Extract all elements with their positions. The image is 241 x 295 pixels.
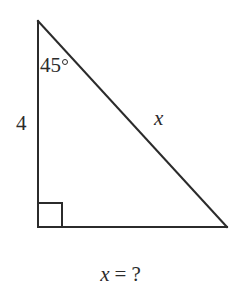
- triangle-hypotenuse: [38, 21, 227, 227]
- caption-equals: =: [115, 262, 127, 286]
- angle-label: 45: [40, 55, 68, 76]
- triangle-drawing: [0, 0, 241, 295]
- caption-variable: x: [100, 262, 109, 286]
- caption-unknown: ?: [131, 262, 140, 286]
- right-angle-marker-icon: [38, 203, 62, 227]
- geometry-figure: 45 4 x: [0, 0, 241, 295]
- vertical-leg-label: 4: [16, 113, 27, 134]
- degree-symbol-icon: [62, 59, 68, 65]
- angle-label-value: 45: [40, 53, 61, 77]
- caption: x=?: [0, 264, 241, 285]
- hypotenuse-label: x: [154, 108, 163, 129]
